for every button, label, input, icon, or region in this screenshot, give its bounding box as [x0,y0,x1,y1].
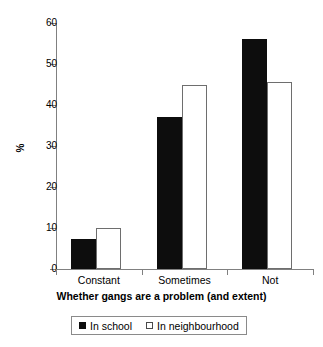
x-axis-line [56,269,313,270]
legend-swatch-hollow-icon [146,322,153,329]
bar-sometimes-in-neighbourhood [182,85,207,270]
x-axis-tick [313,269,314,275]
y-axis-tick-label: 50 [37,59,57,69]
y-axis-tick-label: 30 [37,141,57,151]
bar-chart: % 0102030405060 ConstantSometimesNot Whe… [0,0,323,347]
legend-label: In school [90,320,132,332]
bar-sometimes-in-school [157,117,182,269]
y-axis-tick-label: 40 [37,100,57,110]
bar-constant-in-neighbourhood [96,228,121,269]
legend-swatch-filled-icon [79,322,86,329]
legend-item-in-school: In school [79,320,132,332]
legend-label: In neighbourhood [157,320,239,332]
legend: In school In neighbourhood [71,316,247,335]
y-axis-tick-label: 10 [37,223,57,233]
x-axis-category-label: Constant [56,274,142,286]
x-axis-title: Whether gangs are a problem (and extent) [0,290,323,303]
plot-area [56,23,313,269]
bar-not-in-school [242,39,267,269]
y-axis-tick-label: 0 [37,264,57,274]
bar-not-in-neighbourhood [267,82,292,269]
y-axis-tick-label: 20 [37,182,57,192]
x-axis-category-label: Not [227,274,313,286]
bar-constant-in-school [71,239,96,269]
x-axis-category-label: Sometimes [142,274,228,286]
y-axis-tick-label: 60 [37,18,57,28]
legend-item-in-neighbourhood: In neighbourhood [146,320,239,332]
